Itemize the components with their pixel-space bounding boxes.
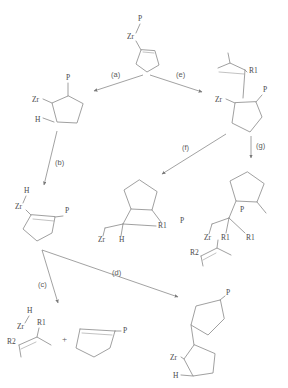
bond-methyl-down [19, 345, 21, 357]
ring-cyclopentene [136, 50, 159, 72]
arrow-step-e: (e) [150, 70, 202, 92]
arrow-step-b: (b) [44, 131, 65, 185]
bond-h-ring [43, 118, 54, 122]
bond-h-zr [23, 196, 26, 203]
bond-p-ring [256, 95, 262, 102]
atom-label-p: P [123, 326, 127, 335]
atom-label-zr: Zr [17, 322, 25, 331]
atom-label-r1: R1 [246, 233, 255, 242]
arrow-step-d: (d) [42, 250, 178, 297]
step-label-f: (f) [182, 143, 190, 152]
bond-ch-r1b [229, 218, 245, 233]
bond-zr-ring [181, 357, 184, 359]
structure-bicyclic: P Zr H [170, 288, 230, 380]
arrow-d-line [42, 250, 178, 297]
ring-cyclopentane [124, 180, 157, 210]
step-label-g: (g) [256, 141, 266, 150]
atom-label-p: P [263, 85, 267, 94]
atom-label-h: H [173, 371, 179, 380]
atom-label-zr: Zr [170, 353, 178, 362]
atom-label-zr: Zr [32, 95, 40, 104]
bond-alkene-chain [218, 63, 245, 70]
bond-alkene-chain [201, 248, 231, 256]
bond-zr-p [136, 24, 140, 33]
ring-cyclopentane-lower [184, 345, 215, 376]
structure-cyclopentene-p: H Zr P [15, 186, 69, 241]
bond-methyl-up [228, 53, 230, 63]
atom-label-p: P [226, 288, 230, 297]
atom-label-r1: R1 [221, 233, 230, 242]
bond-p-ring [220, 296, 225, 300]
atom-label-zr: Zr [215, 95, 223, 104]
arrow-step-a: (a) [94, 70, 143, 91]
step-label-c: (c) [38, 280, 47, 289]
bond-ring-to-ch [229, 201, 236, 218]
atom-label-h: H [24, 186, 30, 195]
bond-alkene-chain [19, 337, 51, 345]
atom-label-r1: R1 [249, 66, 258, 75]
bond-zr-ring [136, 41, 141, 50]
bond-ring-to-p [257, 202, 266, 213]
bond-ring-link [191, 325, 194, 345]
structure-right-alkene-r1: R1 Zr P [215, 53, 267, 132]
reaction-scheme-diagram: P Zr (a) (e) P Zr H R1 Zr P [0, 0, 288, 388]
ring-cyclopentane [230, 172, 264, 202]
atom-label-p: P [240, 205, 244, 214]
bond-methyl-down [201, 256, 203, 266]
arrow-step-c: (c) [38, 250, 58, 303]
bond-double-inner [143, 52, 154, 53]
arrow-step-f: (f) [162, 134, 226, 174]
atom-label-zr: Zr [204, 233, 212, 242]
bond-alkene-to-r1 [217, 240, 218, 248]
plus-sign: + [62, 334, 67, 344]
arrow-f-line [162, 134, 226, 174]
atom-label-h: H [27, 306, 33, 315]
bond-zr-ring [26, 210, 31, 215]
atom-label-p: P [66, 73, 70, 82]
atom-label-r2: R2 [190, 248, 199, 257]
ring-cyclopentane [52, 96, 83, 123]
ring-cyclopentane-upper [191, 300, 224, 335]
structure-center-r1: R1 P Zr H [98, 180, 184, 244]
atom-label-p: P [65, 206, 69, 215]
bond-p-ring [55, 216, 63, 217]
step-label-d: (d) [112, 268, 122, 277]
bond-alkene-to-r1 [37, 328, 39, 337]
structure-left-zr-h: P Zr H [32, 73, 83, 124]
atom-label-zr: Zr [127, 32, 135, 41]
step-label-e: (e) [176, 70, 186, 79]
arrow-step-g: (g) [251, 136, 266, 158]
structure-alkene-products: H Zr R1 R2 + P [7, 306, 127, 357]
step-label-b: (b) [55, 158, 65, 167]
bond-ring-to-ch [123, 209, 131, 224]
bond-ring-to-p [152, 210, 161, 222]
atom-label-zr: Zr [98, 235, 106, 244]
arrow-c-line [42, 250, 58, 303]
atom-label-h: H [35, 115, 41, 124]
atom-label-r2: R2 [7, 337, 16, 346]
atom-label-p: P [180, 216, 184, 225]
bond-zr-ring [43, 99, 52, 103]
atom-label-r1: R1 [158, 221, 167, 230]
bond-ch-ch2 [105, 224, 123, 228]
bond-h-ring [181, 375, 193, 376]
bond-zr-ring [226, 99, 235, 103]
bond-double-inner [82, 333, 112, 335]
atom-label-h: H [119, 235, 125, 244]
structure-right-r1-r1: P Zr R1 R1 R2 [190, 172, 266, 266]
structure-start-complex: P Zr [127, 14, 159, 72]
bond-double-inner [219, 72, 244, 74]
bond-double-inner [33, 219, 54, 221]
atom-label-p: P [138, 14, 142, 23]
bond-ring-top [80, 329, 115, 331]
ring-cyclopentene [23, 215, 55, 241]
bond-ch-r1a [226, 218, 229, 233]
bond-ch-r1 [123, 224, 156, 226]
bond-h-zr [25, 316, 29, 323]
bond-ch-ch2 [212, 218, 229, 224]
atom-label-zr: Zr [15, 202, 23, 211]
atom-label-r1: R1 [37, 318, 46, 327]
step-label-a: (a) [111, 70, 121, 79]
ring-cyclopentane [232, 102, 262, 132]
